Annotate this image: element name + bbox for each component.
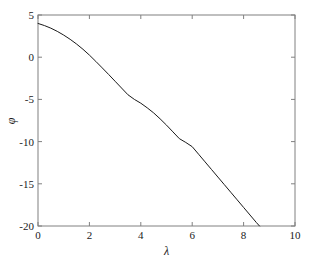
y-tick-label: -5 <box>25 94 34 105</box>
x-tick-label: 8 <box>241 230 247 241</box>
x-tick-label: 4 <box>138 230 144 241</box>
y-tick-label: -15 <box>19 178 34 189</box>
y-tick-label: -10 <box>19 136 34 147</box>
plot-area <box>0 0 313 259</box>
y-tick-label: 5 <box>29 10 35 21</box>
x-tick-label: 6 <box>189 230 195 241</box>
y-tick-label: 0 <box>29 52 35 63</box>
x-axis-label: λ <box>164 245 169 257</box>
x-tick-label: 0 <box>35 230 41 241</box>
y-tick-label: -20 <box>19 221 34 232</box>
x-tick-label: 10 <box>290 230 301 241</box>
x-tick-label: 2 <box>87 230 93 241</box>
figure-canvas: 024681050-5-10-15-20 λ φ <box>0 0 313 259</box>
figure-background <box>0 0 313 259</box>
y-axis-label: φ <box>5 117 17 124</box>
